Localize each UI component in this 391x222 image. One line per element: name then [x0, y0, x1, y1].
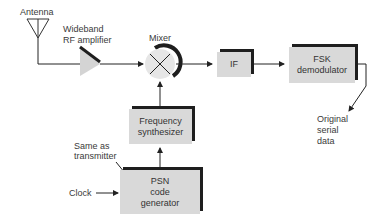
amplifier-label-line1: Wideband [63, 24, 104, 35]
if-block: IF [217, 52, 251, 77]
psn-label-line1: PSN [151, 176, 170, 187]
output-label-line1: Original [317, 114, 348, 125]
output-label-line3: data [317, 136, 335, 147]
mixer-icon [145, 45, 181, 79]
psn-label-line3: generator [141, 198, 180, 209]
if-block-label: IF [230, 59, 238, 70]
amplifier-icon [80, 47, 100, 76]
same-as-label-line2: transmitter [74, 151, 117, 162]
mixer-label: Mixer [149, 33, 171, 44]
psn-label-line2: code [150, 187, 170, 198]
clock-label: Clock [69, 188, 92, 199]
synth-label-line1: Frequency [139, 116, 182, 127]
output-label-line2: serial [317, 125, 339, 136]
synth-label-line2: synthesizer [138, 127, 184, 138]
fsk-label-line1: FSK [313, 54, 331, 65]
fsk-label-line2: demodulator [297, 65, 347, 76]
antenna-label: Antenna [20, 7, 54, 18]
fsk-demodulator-block: FSK demodulator [289, 47, 355, 83]
antenna-icon [27, 19, 49, 38]
psn-code-generator-block: PSN code generator [120, 170, 200, 214]
frequency-synthesizer-block: Frequency synthesizer [129, 109, 192, 144]
amplifier-label-line2: RF amplifier [63, 35, 112, 46]
